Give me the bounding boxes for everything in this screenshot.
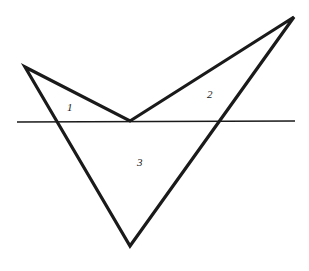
region-label-3: 3 [136, 156, 143, 168]
diagram-canvas: 1 2 3 [0, 0, 309, 271]
concave-quadrilateral [25, 17, 294, 246]
cutting-line [17, 121, 295, 122]
region-label-2: 2 [207, 88, 213, 100]
region-label-1: 1 [67, 101, 73, 113]
